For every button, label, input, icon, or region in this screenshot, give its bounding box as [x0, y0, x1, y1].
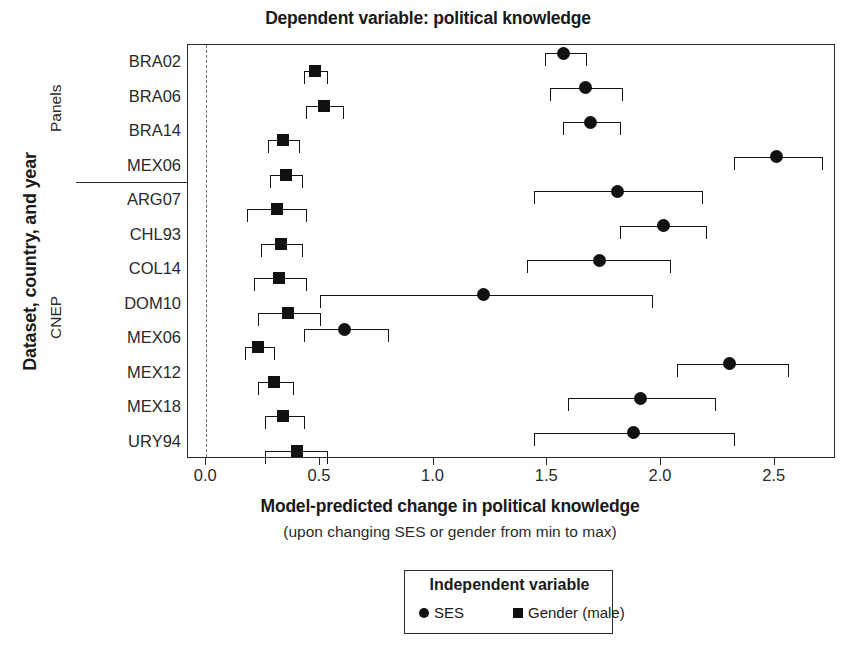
confidence-interval-cap — [622, 88, 623, 101]
data-point-ses — [627, 426, 640, 439]
data-point-ses — [593, 254, 606, 267]
confidence-interval-cap — [670, 260, 671, 273]
data-point-gender — [291, 445, 303, 457]
x-axis-tick-mark — [546, 458, 547, 465]
data-point-gender — [252, 341, 264, 353]
legend-title: Independent variable — [405, 576, 614, 594]
confidence-interval-cap — [388, 329, 389, 342]
data-point-gender — [280, 169, 292, 181]
confidence-interval-cap — [302, 175, 303, 188]
confidence-interval-cap — [788, 364, 789, 377]
x-axis-tick-mark — [774, 458, 775, 465]
y-axis-tick-label: URY94 — [61, 431, 181, 450]
x-axis-tick-mark — [205, 458, 206, 465]
confidence-interval-cap — [527, 260, 528, 273]
confidence-interval-cap — [715, 398, 716, 411]
data-point-gender — [309, 65, 321, 77]
data-point-ses — [723, 357, 736, 370]
confidence-interval-cap — [706, 226, 707, 239]
x-axis: 0.00.51.01.52.02.5 — [187, 458, 835, 488]
x-axis-tick-label: 1.5 — [516, 466, 576, 485]
chart-title: Dependent variable: political knowledge — [0, 8, 856, 29]
x-axis-tick-label: 2.5 — [744, 466, 804, 485]
confidence-interval-cap — [304, 71, 305, 84]
x-axis-title: Model-predicted change in political know… — [100, 496, 800, 517]
y-axis-tick-label: ARG07 — [61, 190, 181, 209]
confidence-interval-cap — [620, 226, 621, 239]
y-axis-tick-label: BRA02 — [61, 52, 181, 71]
confidence-interval-cap — [327, 71, 328, 84]
confidence-interval-cap — [258, 382, 259, 395]
x-axis-tick-mark — [319, 458, 320, 465]
data-point-ses — [557, 47, 570, 60]
data-point-ses — [338, 323, 351, 336]
x-axis-tick-label: 0.5 — [289, 466, 349, 485]
confidence-interval-cap — [268, 140, 269, 153]
data-point-gender — [277, 410, 289, 422]
y-axis-tick-label: MEX18 — [61, 397, 181, 416]
confidence-interval-cap — [320, 313, 321, 326]
data-point-ses — [477, 288, 490, 301]
data-point-ses — [579, 81, 592, 94]
confidence-interval-cap — [304, 416, 305, 429]
confidence-interval-cap — [586, 53, 587, 66]
confidence-interval-cap — [270, 175, 271, 188]
confidence-interval-cap — [320, 295, 321, 308]
confidence-interval-cap — [702, 191, 703, 204]
confidence-interval-cap — [534, 191, 535, 204]
confidence-interval-cap — [677, 364, 678, 377]
confidence-interval-cap — [534, 433, 535, 446]
y-axis-tick-label: DOM10 — [61, 293, 181, 312]
data-point-gender — [271, 203, 283, 215]
x-axis-tick-label: 2.0 — [630, 466, 690, 485]
data-point-gender — [277, 134, 289, 146]
confidence-interval-cap — [822, 157, 823, 170]
x-axis-tick-label: 0.0 — [175, 466, 235, 485]
x-axis-tick-mark — [660, 458, 661, 465]
confidence-interval-cap — [247, 209, 248, 222]
legend-entry-label: SES — [434, 604, 464, 621]
square-marker-icon — [513, 608, 523, 618]
confidence-interval-cap — [254, 278, 255, 291]
confidence-interval-cap — [306, 278, 307, 291]
confidence-interval-cap — [563, 122, 564, 135]
y-axis-tick-label: BRA14 — [61, 121, 181, 140]
confidence-interval-cap — [261, 244, 262, 257]
data-point-ses — [584, 116, 597, 129]
legend-box: Independent variable SESGender (male) — [404, 570, 613, 634]
data-point-gender — [273, 272, 285, 284]
confidence-interval-cap — [306, 106, 307, 119]
confidence-interval-cap — [568, 398, 569, 411]
confidence-interval-cap — [299, 140, 300, 153]
confidence-interval-cap — [245, 347, 246, 360]
legend-entry-label: Gender (male) — [528, 604, 625, 621]
data-point-ses — [770, 150, 783, 163]
confidence-interval-cap — [734, 433, 735, 446]
forest-plot-figure: Dependent variable: political knowledge … — [0, 0, 856, 660]
legend-entry-ses: SES — [419, 604, 464, 621]
plot-area — [187, 44, 835, 458]
confidence-interval-cap — [306, 209, 307, 222]
y-axis-tick-label: COL14 — [61, 259, 181, 278]
data-point-ses — [611, 185, 624, 198]
confidence-interval-cap — [258, 313, 259, 326]
x-axis-subtitle: (upon changing SES or gender from min to… — [100, 523, 800, 541]
data-point-gender — [282, 307, 294, 319]
y-axis-tick-label: BRA06 — [61, 86, 181, 105]
zero-reference-line — [206, 45, 207, 457]
data-point-gender — [268, 376, 280, 388]
confidence-interval-cap — [274, 347, 275, 360]
y-axis-tick-label: MEX12 — [61, 362, 181, 381]
confidence-interval-cap — [293, 382, 294, 395]
confidence-interval-cap — [652, 295, 653, 308]
confidence-interval-cap — [550, 88, 551, 101]
confidence-interval-cap — [343, 106, 344, 119]
confidence-interval-cap — [620, 122, 621, 135]
x-axis-tick-label: 1.0 — [403, 466, 463, 485]
data-point-gender — [275, 238, 287, 250]
y-axis-tick-label: MEX06 — [61, 328, 181, 347]
x-axis-tick-mark — [433, 458, 434, 465]
confidence-interval-cap — [302, 244, 303, 257]
confidence-interval-cap — [304, 329, 305, 342]
confidence-interval-cap — [265, 416, 266, 429]
